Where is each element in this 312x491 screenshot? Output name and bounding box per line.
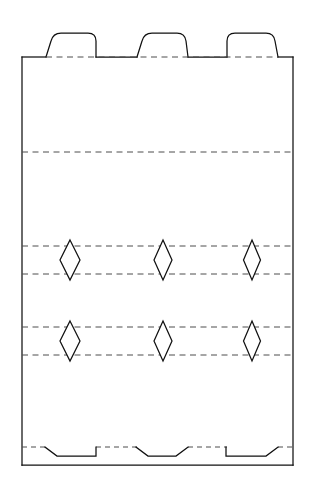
top-tab-right	[227, 33, 278, 57]
bottom-notch-left	[45, 447, 96, 456]
drawing-canvas	[0, 0, 312, 491]
bottom-notch-right	[226, 447, 278, 456]
fold-lines-group	[22, 57, 293, 355]
bottom-fold-group	[22, 447, 293, 456]
top-tab-middle	[137, 33, 188, 57]
apertures-group	[60, 240, 261, 361]
top-tab-left	[46, 33, 96, 57]
die-cut-template-drawing	[0, 0, 312, 491]
bottom-notch-middle	[136, 447, 188, 456]
top-tabs-group	[46, 33, 278, 57]
